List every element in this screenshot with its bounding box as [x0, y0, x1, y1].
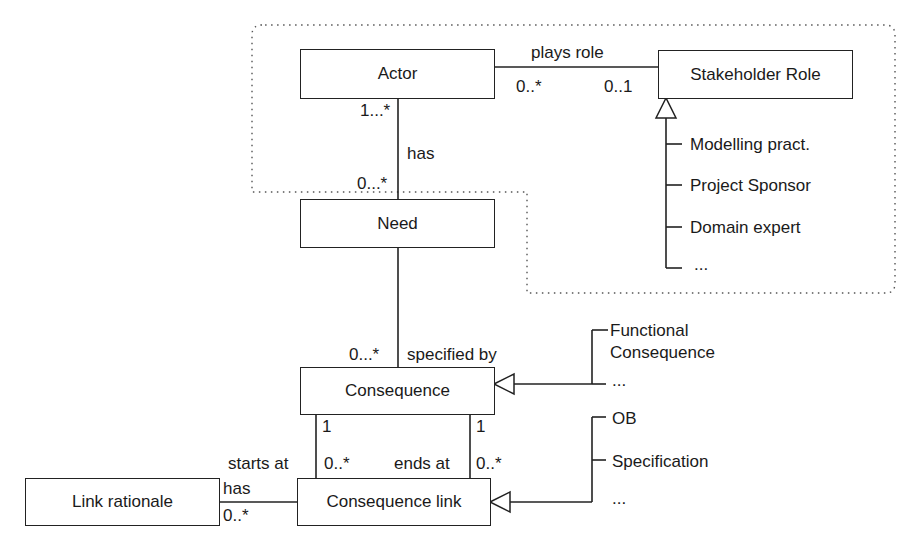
mult-specified-by: 0...*: [349, 346, 379, 363]
consequence-subtype: ...: [612, 372, 626, 389]
mult-ends-top: 1: [476, 418, 485, 435]
mult-starts-top: 1: [322, 418, 331, 435]
stakeholder-subtype: Project Sponsor: [690, 177, 811, 194]
link-subtype: Specification: [612, 453, 708, 470]
class-need-label: Need: [377, 214, 418, 234]
mult-actor-role: 0..*: [516, 78, 542, 95]
class-stakeholder-role: Stakeholder Role: [658, 50, 853, 99]
class-consequence-link: Consequence link: [297, 478, 491, 526]
assoc-plays-role-label: plays role: [531, 44, 604, 61]
stakeholder-subtype: ...: [694, 256, 708, 273]
assoc-ends-at-label: ends at: [394, 455, 450, 472]
class-actor-label: Actor: [378, 64, 418, 84]
assoc-has-need-label: has: [407, 145, 434, 162]
class-stakeholder-role-label: Stakeholder Role: [690, 65, 820, 85]
link-subtype: OB: [612, 410, 637, 427]
class-link-rationale-label: Link rationale: [72, 492, 173, 512]
class-link-rationale: Link rationale: [25, 478, 220, 526]
stakeholder-subtype: Domain expert: [690, 219, 801, 236]
mult-ends-bottom: 0..*: [476, 455, 502, 472]
link-subtype: ...: [612, 490, 626, 507]
class-actor: Actor: [300, 49, 495, 99]
assoc-has-rationale-label: has: [223, 480, 250, 497]
mult-actor-need: 1...*: [360, 102, 390, 119]
mult-starts-bottom: 0..*: [324, 455, 350, 472]
mult-role: 0..1: [604, 78, 632, 95]
assoc-starts-at-label: starts at: [228, 455, 288, 472]
class-consequence: Consequence: [300, 367, 495, 415]
class-consequence-link-label: Consequence link: [326, 492, 461, 512]
assoc-specified-by-label: specified by: [407, 346, 497, 363]
stakeholder-subtype: Modelling pract.: [690, 136, 810, 153]
mult-need: 0...*: [357, 175, 387, 192]
mult-rationale: 0..*: [223, 507, 249, 524]
consequence-subtype: Consequence: [610, 344, 715, 361]
class-consequence-label: Consequence: [345, 381, 450, 401]
class-need: Need: [300, 199, 495, 248]
consequence-subtype: Functional: [610, 322, 688, 339]
